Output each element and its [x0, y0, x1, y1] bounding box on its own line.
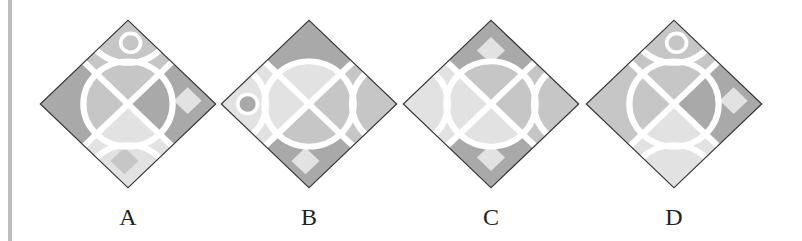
pattern-tile-a [38, 18, 218, 190]
left-margin-bar [8, 0, 12, 241]
option-label-a: A [38, 203, 218, 231]
option-c[interactable]: C [401, 0, 581, 241]
pattern-tile-b [219, 18, 399, 190]
pattern-tile-d [584, 18, 764, 190]
option-label-c: C [401, 203, 581, 231]
option-label-b: B [219, 203, 399, 231]
option-b[interactable]: B [219, 0, 399, 241]
option-label-d: D [584, 203, 764, 231]
option-d[interactable]: D [584, 0, 764, 241]
pattern-tile-c [401, 18, 581, 190]
option-a[interactable]: A [38, 0, 218, 241]
